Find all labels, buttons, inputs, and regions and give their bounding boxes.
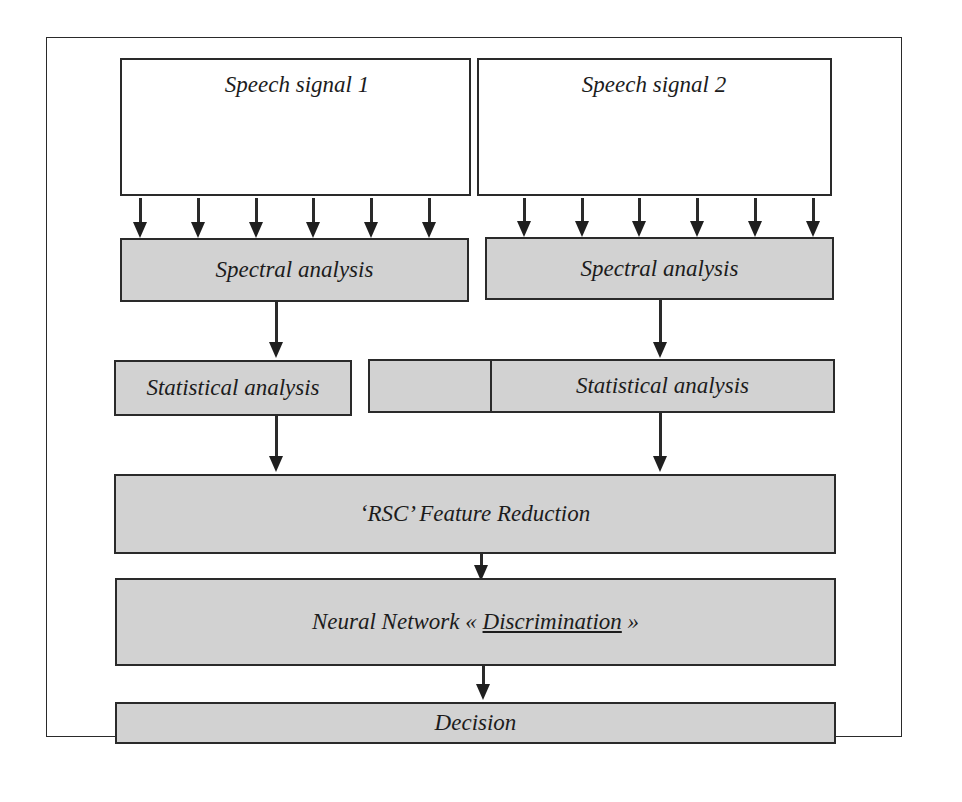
statistical-analysis-label-2: Statistical analysis — [576, 373, 749, 399]
arrow-head-icon — [806, 221, 820, 237]
arrow-head-icon — [653, 456, 667, 472]
arrow-head-icon — [269, 456, 283, 472]
feature-reduction-box: ‘RSC’ Feature Reduction — [114, 474, 836, 554]
arrow-head-icon — [690, 221, 704, 237]
connector-line — [275, 302, 278, 342]
neural-network-suffix: » — [622, 609, 639, 634]
arrow-head-icon — [269, 342, 283, 358]
arrow-head-icon — [476, 684, 490, 700]
arrow-head-icon — [364, 222, 378, 238]
arrow-head-icon — [422, 222, 436, 238]
statistical-analysis-box-2: Statistical analysis — [490, 359, 835, 413]
spectral-analysis-label-1: Spectral analysis — [216, 257, 374, 283]
speech-signal-1-box: Speech signal 1 — [120, 58, 474, 196]
arrow-head-icon — [517, 221, 531, 237]
arrow-head-icon — [191, 222, 205, 238]
feature-reduction-label: ‘RSC’ Feature Reduction — [360, 501, 590, 527]
arrow-head-icon — [653, 342, 667, 358]
neural-network-emphasis: Discrimination — [483, 609, 622, 634]
arrow-head-icon — [306, 222, 320, 238]
connector-line — [275, 416, 278, 456]
arrow-head-icon — [575, 221, 589, 237]
connector-line — [659, 300, 662, 342]
speech-signal-1-label: Speech signal 1 — [225, 72, 369, 98]
speech-signal-2-label: Speech signal 2 — [582, 72, 726, 98]
arrow-head-icon — [249, 222, 263, 238]
decision-box: Decision — [115, 702, 836, 744]
statistical-analysis-label-1: Statistical analysis — [146, 375, 319, 401]
speech-signal-2-box: Speech signal 2 — [476, 58, 832, 196]
neural-network-prefix: Neural Network « — [312, 609, 483, 634]
statistical-analysis-box-1: Statistical analysis — [114, 360, 352, 416]
decision-label: Decision — [435, 710, 517, 736]
spectral-analysis-box-1: Spectral analysis — [120, 238, 469, 302]
neural-network-box: Neural Network « Discrimination » — [115, 578, 836, 666]
arrow-head-icon — [632, 221, 646, 237]
connector-line — [659, 413, 662, 456]
arrow-head-icon — [133, 222, 147, 238]
input-divider — [469, 58, 479, 196]
arrow-head-icon — [748, 221, 762, 237]
connector-line — [482, 666, 485, 684]
spectral-analysis-box-2: Spectral analysis — [485, 237, 834, 300]
neural-network-label: Neural Network « Discrimination » — [312, 609, 639, 635]
spectral-analysis-label-2: Spectral analysis — [581, 256, 739, 282]
